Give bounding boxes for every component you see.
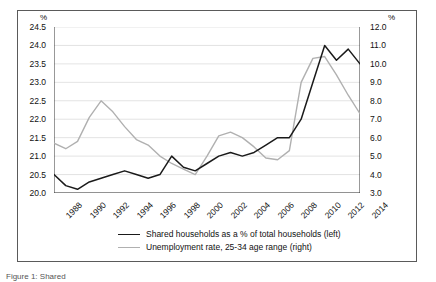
- left-axis-tick-21.5: 21.5: [20, 133, 46, 143]
- chart-lines: [54, 27, 360, 193]
- left-axis-tick-21.0: 21.0: [20, 151, 46, 161]
- right-axis-tick-6.0: 6.0: [370, 133, 396, 143]
- chart-legend: Shared households as a % of total househ…: [118, 228, 341, 254]
- legend-item-unemployment-rate: Unemployment rate, 25-34 age range (righ…: [118, 241, 341, 254]
- line-unemployment-rate: [54, 57, 360, 175]
- legend-swatch-shared-households: [118, 234, 140, 235]
- right-axis-tick-8.0: 8.0: [370, 96, 396, 106]
- left-axis-unit-label: %: [40, 13, 47, 22]
- figure-caption: Figure 1: Shared: [6, 272, 66, 281]
- right-axis-tick-5.0: 5.0: [370, 151, 396, 161]
- line-shared-households: [54, 45, 360, 189]
- right-axis-tick-12.0: 12.0: [370, 22, 396, 32]
- right-axis-tick-11.0: 11.0: [370, 40, 396, 50]
- right-axis-tick-4.0: 4.0: [370, 170, 396, 180]
- left-axis-tick-24.5: 24.5: [20, 22, 46, 32]
- right-axis-unit-label: %: [388, 13, 395, 22]
- legend-label-shared-households: Shared households as a % of total househ…: [146, 228, 341, 241]
- left-axis-tick-24.0: 24.0: [20, 40, 46, 50]
- plot-area: [54, 27, 360, 193]
- left-axis-tick-22.0: 22.0: [20, 114, 46, 124]
- left-axis-tick-22.5: 22.5: [20, 96, 46, 106]
- left-axis-tick-23.5: 23.5: [20, 59, 46, 69]
- right-axis-tick-3.0: 3.0: [370, 188, 396, 198]
- right-axis-tick-10.0: 10.0: [370, 59, 396, 69]
- legend-item-shared-households: Shared households as a % of total househ…: [118, 228, 341, 241]
- left-axis-tick-23.0: 23.0: [20, 77, 46, 87]
- left-axis-tick-20.5: 20.5: [20, 170, 46, 180]
- left-axis-tick-20.0: 20.0: [20, 188, 46, 198]
- right-axis-tick-7.0: 7.0: [370, 114, 396, 124]
- right-axis-tick-9.0: 9.0: [370, 77, 396, 87]
- legend-swatch-unemployment-rate: [118, 247, 140, 248]
- legend-label-unemployment-rate: Unemployment rate, 25-34 age range (righ…: [146, 241, 312, 254]
- chart-figure: % % 24.524.023.523.022.522.021.521.020.5…: [0, 0, 436, 282]
